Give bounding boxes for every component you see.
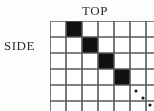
grid-cell-empty (114, 21, 130, 37)
grid-cell-empty (66, 101, 82, 111)
top-axis-label: TOP (0, 4, 154, 17)
grid-cell-empty (98, 101, 114, 111)
grid-cell-empty (50, 53, 66, 69)
grid-cell-empty (146, 37, 154, 53)
grid-cell-empty (82, 85, 98, 101)
grid-cell-empty (98, 85, 114, 101)
grid-cell-empty (82, 53, 98, 69)
ellipsis-dot (148, 103, 151, 106)
grid-cell-filled (98, 53, 114, 69)
grid-cell-empty (50, 69, 66, 85)
grid-cell-empty (114, 101, 130, 111)
grid-cell-empty (146, 53, 154, 69)
grid-cell-empty (130, 53, 146, 69)
grid-cell-empty (50, 85, 66, 101)
grid-cell-empty (82, 101, 98, 111)
grid-cell-empty (66, 37, 82, 53)
grid-cell-empty (98, 37, 114, 53)
figure-container: TOP SIDE (0, 0, 154, 111)
grid-cell-empty (66, 85, 82, 101)
grid-cell-empty (50, 101, 66, 111)
grid-cell-empty (114, 37, 130, 53)
grid-cell-filled (114, 69, 130, 85)
grid-cell-empty (82, 69, 98, 85)
grid-cell-empty (130, 37, 146, 53)
grid-cell-empty (146, 85, 154, 101)
grid-svg (50, 21, 154, 111)
grid-cell-empty (146, 69, 154, 85)
grid-cell-empty (82, 21, 98, 37)
grid-cell-empty (98, 21, 114, 37)
grid-cell-empty (66, 69, 82, 85)
side-axis-label: SIDE (4, 39, 35, 52)
grid-cell-empty (98, 69, 114, 85)
grid-region (50, 21, 154, 111)
grid-cell-empty (146, 21, 154, 37)
grid-cell-empty (130, 101, 146, 111)
grid-cell-filled (66, 21, 82, 37)
grid-cell-empty (130, 21, 146, 37)
ellipsis-dot (141, 96, 144, 99)
grid-cell-empty (114, 53, 130, 69)
grid-cell-empty (50, 37, 66, 53)
grid-cell-empty (50, 21, 66, 37)
grid-cell-filled (82, 37, 98, 53)
grid-cell-empty (114, 85, 130, 101)
grid-cell-empty (66, 53, 82, 69)
grid-cell-empty (130, 69, 146, 85)
ellipsis-dot (134, 89, 137, 92)
